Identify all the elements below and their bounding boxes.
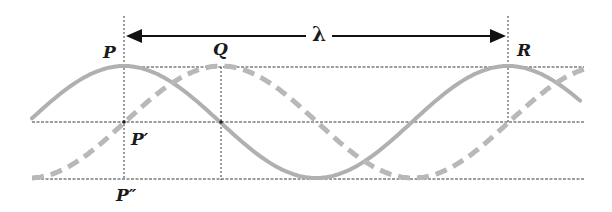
label-Q: Q xyxy=(213,41,228,58)
label-P: P xyxy=(103,44,116,61)
arrowhead-left-icon xyxy=(126,29,142,43)
point-P-prime-dot xyxy=(122,120,126,124)
wave-diagram: λ P Q R P′ P″ xyxy=(0,0,612,212)
label-P-prime: P′ xyxy=(131,131,148,148)
arrowhead-right-icon xyxy=(490,29,506,43)
wavelength-label: λ xyxy=(306,24,332,44)
point-Q-mid-dot xyxy=(219,120,223,124)
label-P-double-prime: P″ xyxy=(116,187,136,204)
label-R: R xyxy=(517,42,531,59)
